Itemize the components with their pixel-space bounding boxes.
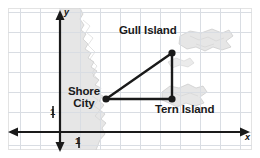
y-axis-tick-label-one: 1 [50, 107, 55, 117]
point-tern-island [168, 95, 175, 102]
map-figure: Gull Island Tern Island Shore City y x 1… [0, 0, 260, 158]
label-gull-island: Gull Island [119, 24, 177, 36]
label-shore-city-line1: Shore [62, 85, 106, 97]
x-axis-label: x [245, 133, 250, 142]
label-shore-city-line2: City [62, 97, 106, 109]
y-axis-label: y [64, 8, 69, 17]
point-gull-island [168, 49, 175, 56]
label-shore-city: Shore City [62, 85, 106, 109]
x-axis-tick-label-one: 1 [75, 136, 80, 146]
label-tern-island: Tern Island [155, 103, 214, 115]
